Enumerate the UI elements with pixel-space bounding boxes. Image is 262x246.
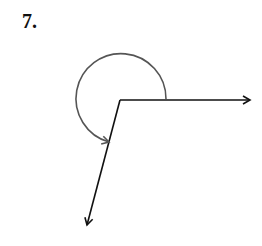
reflex-angle-arc bbox=[76, 54, 166, 142]
angle-diagram bbox=[0, 0, 262, 246]
ray-down-left bbox=[87, 100, 120, 225]
